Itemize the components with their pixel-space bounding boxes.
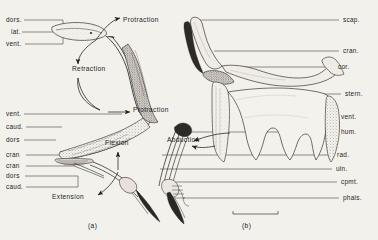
label-vent-lower: vent. [6, 111, 21, 117]
label-vent-upper: vent. [6, 41, 21, 47]
label-dors-mid: dors [6, 137, 20, 143]
panel-a-caption: (a) [88, 222, 97, 229]
phalanges [167, 192, 184, 224]
label-cran: cran. [343, 48, 359, 54]
label-cran-lower: cran [6, 163, 20, 169]
label-stern: stern. [345, 91, 363, 97]
label-abduction: Abduction [167, 137, 199, 144]
label-scap: scap. [343, 17, 360, 23]
label-rad: rad. [337, 152, 349, 158]
label-uln: uln. [336, 166, 348, 172]
label-protraction-upper: Protraction [123, 17, 159, 24]
label-caud-lower: caud. [6, 184, 23, 190]
abduction-arrow [192, 146, 215, 148]
label-cpmt: cpmt. [341, 179, 358, 185]
label-retraction: Retraction [72, 66, 106, 73]
panel-b-caption: (b) [242, 222, 251, 229]
label-caud-upper: caud. [6, 124, 23, 130]
panel-a-movement-arrows [78, 18, 130, 195]
label-protraction-lower: Protraction [133, 107, 169, 114]
figure-artwork [0, 0, 378, 240]
label-cran-upper: cran [6, 152, 20, 158]
panel-b-skeleton [159, 17, 344, 224]
scale-bar [233, 211, 278, 214]
label-hum: hum. [341, 129, 356, 135]
label-dors-upper: dors. [6, 17, 22, 23]
sternum-body [228, 88, 328, 160]
extension-arrow [98, 172, 118, 195]
label-lat: lat. [11, 29, 21, 35]
retraction-arrow [78, 40, 96, 64]
label-dors-lower: dors [6, 173, 20, 179]
label-vent: vent. [341, 114, 356, 120]
shoulder-joint-shading [174, 123, 191, 137]
sternum-keel-left [212, 82, 230, 162]
label-extension: Extension [52, 194, 84, 201]
label-flexion: Flexion [105, 140, 129, 147]
anatomical-figure: dors. lat. vent. vent. caud. dors cran c… [0, 0, 378, 240]
label-cor: cor. [338, 64, 350, 70]
furcula-clavicle [222, 64, 337, 86]
label-phals: phals. [343, 195, 362, 201]
